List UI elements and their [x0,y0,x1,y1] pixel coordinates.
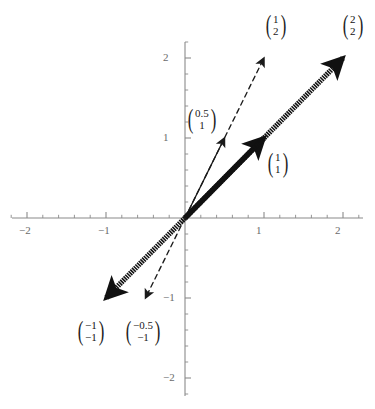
vector-components: −1−1 [85,320,97,344]
y-axis-tick-label: 1 [163,132,169,143]
left-parenthesis: ( [268,150,274,177]
vector-component-y: 1 [195,120,209,132]
x-axis-tick-label: −2 [19,225,31,236]
vector-component-x: −0.5 [133,320,153,332]
vector-component-y: −1 [85,332,97,344]
vector-component-y: 2 [273,26,279,38]
vector-components: 22 [350,14,356,38]
vector-component-y: −1 [133,332,153,344]
right-parenthesis: ) [357,12,363,39]
vector-2-2-label: (22) [341,12,365,39]
vector-component-x: 2 [350,14,356,26]
vector-component-x: 1 [275,152,281,164]
vector-neg0.5-neg1-label: (−0.5−1) [124,318,162,345]
left-parenthesis: ( [78,318,84,345]
vector-neg1-neg1-label: (−1−1) [76,318,106,345]
left-parenthesis: ( [266,12,272,39]
vector-1-2-label: (12) [264,12,288,39]
vector-component-x: −1 [85,320,97,332]
y-axis-tick-label: −1 [163,292,175,303]
right-parenthesis: ) [280,12,286,39]
vector-component-y: 2 [350,26,356,38]
y-axis-tick-label: 2 [163,52,169,63]
vector-plot-figure: −2−112−2−112 (0.51)(11)(12)(22)(−1−1)(−0… [0,0,375,409]
left-parenthesis: ( [188,106,194,133]
left-parenthesis: ( [126,318,132,345]
right-parenthesis: ) [98,318,104,345]
y-axis-tick-label: −2 [163,372,175,383]
vector-components: 11 [275,152,281,176]
vector-component-y: 1 [275,164,281,176]
x-axis-tick-label: 2 [335,225,341,236]
vector-component-x: 1 [273,14,279,26]
x-axis-tick-label: 1 [256,225,262,236]
vector-neg0.5-neg1 [146,218,186,298]
vector-components: 12 [273,14,279,38]
vector-0.5-1-label: (0.51) [186,106,218,133]
vector-1-1-label: (11) [266,150,290,177]
right-parenthesis: ) [155,318,161,345]
vector-neg1-neg1 [106,218,185,298]
x-axis-tick-label: −1 [98,225,110,236]
right-parenthesis: ) [282,150,288,177]
vector-components: 0.51 [195,108,209,132]
vectors-group [106,58,343,298]
vector-components: −0.5−1 [133,320,153,344]
right-parenthesis: ) [210,106,216,133]
vector-component-x: 0.5 [195,108,209,120]
coordinate-plot-canvas [0,0,375,409]
left-parenthesis: ( [343,12,349,39]
